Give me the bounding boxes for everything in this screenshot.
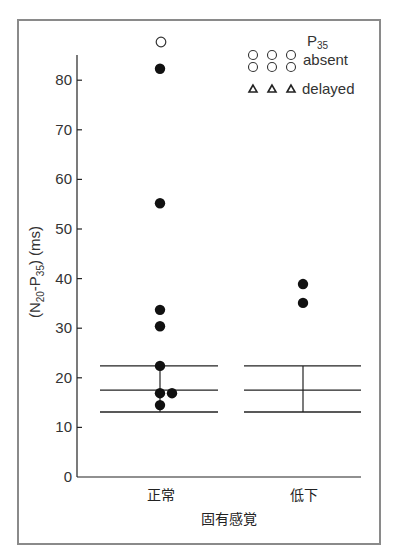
data-point	[298, 298, 308, 308]
y-axis-label: (N20-P35) (ms)	[26, 226, 46, 318]
data-point	[155, 305, 165, 315]
open-circle-icon	[249, 63, 258, 72]
y-tick-label: 60	[55, 170, 72, 187]
open-circle-icon	[249, 51, 258, 60]
triangle-icon	[287, 85, 295, 92]
open-circle-icon	[287, 63, 296, 72]
legend-absent-marker	[249, 51, 296, 72]
chart-figure: 01020304050607080 (N20-P35) (ms) 正常 低下 固…	[0, 0, 401, 559]
x-axis-label: 固有感覚	[201, 511, 257, 527]
y-tick-label: 30	[55, 319, 72, 336]
y-tick-label: 10	[55, 418, 72, 435]
data-point	[155, 64, 165, 74]
legend-delayed-marker	[249, 85, 295, 92]
y-tick-label: 70	[55, 121, 72, 138]
data-point	[167, 388, 177, 398]
legend-title: P35	[307, 32, 329, 51]
open-circle-icon	[268, 63, 277, 72]
legend: P35 absent delayed	[249, 32, 355, 97]
data-point	[298, 279, 308, 289]
data-point	[155, 400, 165, 410]
triangle-icon	[249, 85, 257, 92]
data-point	[155, 321, 165, 331]
category-label-reduced: 低下	[290, 487, 318, 503]
figure-frame	[18, 20, 380, 544]
y-axis: 01020304050607080	[55, 55, 82, 485]
category-label-normal: 正常	[147, 487, 175, 503]
y-tick-label: 40	[55, 270, 72, 287]
data-point	[155, 361, 165, 371]
y-tick-label: 50	[55, 220, 72, 237]
legend-label-absent: absent	[303, 51, 349, 68]
y-tick-label: 0	[64, 468, 72, 485]
triangle-icon	[268, 85, 276, 92]
open-circle-icon	[268, 51, 277, 60]
legend-label-delayed: delayed	[302, 80, 355, 97]
data-point	[155, 388, 165, 398]
absent-marker	[156, 37, 166, 47]
y-tick-label: 20	[55, 369, 72, 386]
data-point	[155, 198, 165, 208]
data-points	[155, 37, 308, 410]
summary-lines	[100, 366, 361, 412]
y-tick-label: 80	[55, 71, 72, 88]
open-circle-icon	[287, 51, 296, 60]
